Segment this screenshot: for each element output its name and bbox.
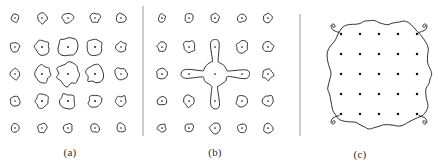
grid-dot — [397, 53, 400, 56]
grid-dot — [14, 73, 16, 75]
panel-caption-a: (a) — [50, 146, 90, 158]
grid-dot — [120, 46, 122, 48]
grid-dot — [359, 33, 362, 36]
figure-illustration — [0, 0, 438, 168]
grid-dot — [67, 46, 69, 48]
grid-dot — [416, 33, 419, 36]
grid-dot — [214, 127, 216, 129]
panel-caption-b: (b) — [195, 146, 235, 158]
grid-dot — [378, 73, 381, 76]
grid-dot — [188, 100, 190, 102]
grid-dot — [94, 100, 96, 102]
grid-dot — [359, 53, 362, 56]
grid-dot — [120, 17, 122, 19]
grid-dot — [41, 17, 43, 19]
grid-dot — [41, 73, 43, 75]
grid-dot — [267, 127, 269, 129]
grid-dot — [267, 46, 269, 48]
grid-dot — [378, 93, 381, 96]
grid-dot — [340, 53, 343, 56]
grid-dot — [241, 127, 243, 129]
grid-dot — [378, 113, 381, 116]
grid-dot — [14, 100, 16, 102]
grid-dot — [41, 100, 43, 102]
panel-b-group — [157, 13, 274, 134]
grid-dot — [397, 33, 400, 36]
grid-dot — [67, 17, 69, 19]
grid-dot — [188, 46, 190, 48]
grid-dot — [188, 17, 190, 19]
grid-dot — [359, 73, 362, 76]
grid-dot — [14, 46, 16, 48]
grid-dot — [416, 73, 419, 76]
grid-dot — [188, 127, 190, 129]
grid-dot — [214, 73, 216, 75]
grid-dot — [214, 17, 216, 19]
grid-dot — [359, 93, 362, 96]
corner-horn — [331, 116, 339, 124]
grid-dot — [94, 46, 96, 48]
figure-container: (a) (b) (c) — [0, 0, 438, 168]
grid-dot — [161, 100, 163, 102]
grid-dot — [14, 17, 16, 19]
grid-dot — [340, 73, 343, 76]
grid-dot — [416, 93, 419, 96]
grid-dot — [267, 17, 269, 19]
grid-dot — [161, 17, 163, 19]
grid-dot — [161, 46, 163, 48]
grid-dot — [340, 113, 343, 116]
grid-dot — [188, 73, 190, 75]
grid-dot — [41, 127, 43, 129]
grid-dot — [378, 33, 381, 36]
grid-dot — [378, 53, 381, 56]
grid-dot — [397, 73, 400, 76]
grid-dot — [241, 46, 243, 48]
grid-dot — [267, 100, 269, 102]
grid-dot — [94, 73, 96, 75]
grid-dot — [340, 33, 343, 36]
grid-dot — [120, 73, 122, 75]
panel-c-group — [327, 20, 432, 129]
panel-a-group — [10, 13, 128, 133]
panel-caption-c: (c) — [340, 148, 380, 160]
grid-dot — [267, 73, 269, 75]
grid-dot — [214, 100, 216, 102]
grid-dot — [241, 17, 243, 19]
corner-horn — [331, 24, 339, 32]
grid-dot — [340, 93, 343, 96]
grid-dot — [241, 73, 243, 75]
grid-dot — [241, 100, 243, 102]
grid-dot — [416, 53, 419, 56]
grid-dot — [397, 113, 400, 116]
grid-dot — [94, 127, 96, 129]
corner-horn — [419, 24, 427, 32]
blob-contour — [59, 93, 74, 109]
grid-dot — [161, 73, 163, 75]
grid-dot — [94, 17, 96, 19]
grid-dot — [67, 73, 69, 75]
grid-dot — [397, 93, 400, 96]
grid-dot — [67, 100, 69, 102]
grid-dot — [120, 127, 122, 129]
grid-dot — [14, 127, 16, 129]
grid-dot — [359, 113, 362, 116]
grid-dot — [67, 127, 69, 129]
grid-dot — [214, 46, 216, 48]
grid-dot — [41, 46, 43, 48]
grid-dot — [161, 127, 163, 129]
grid-dot — [120, 100, 122, 102]
grid-dot — [416, 113, 419, 116]
